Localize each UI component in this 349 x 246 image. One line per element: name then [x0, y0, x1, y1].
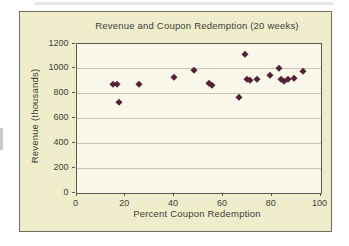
y-tick-label: 200	[35, 163, 69, 172]
data-point	[246, 77, 252, 83]
x-tick-label: 100	[305, 199, 335, 208]
x-tick-label: 0	[61, 199, 91, 208]
y-tick-mark	[72, 142, 75, 143]
x-tick-mark	[222, 193, 223, 196]
data-point	[276, 65, 282, 71]
y-gridline	[77, 143, 321, 144]
x-tick-mark	[271, 193, 272, 196]
y-tick-mark	[72, 167, 75, 168]
x-tick-label: 80	[256, 199, 286, 208]
y-tick-label: 400	[35, 138, 69, 147]
x-tick-mark	[320, 193, 321, 196]
y-tick-label: 0	[35, 188, 69, 197]
y-tick-mark	[72, 192, 75, 193]
data-point	[236, 93, 242, 99]
data-point	[209, 82, 215, 88]
scan-artifact-top	[34, 2, 334, 5]
chart-frame: Revenue and Coupon Redemption (20 weeks)…	[19, 11, 332, 232]
y-gridline	[77, 93, 321, 94]
x-tick-label: 20	[109, 199, 139, 208]
y-tick-mark	[72, 117, 75, 118]
data-point	[267, 72, 273, 78]
data-point	[190, 67, 196, 73]
x-tick-label: 60	[207, 199, 237, 208]
y-tick-mark	[72, 43, 75, 44]
x-tick-mark	[173, 193, 174, 196]
y-gridline	[77, 68, 321, 69]
data-point	[290, 75, 296, 81]
y-gridline	[77, 118, 321, 119]
chart-title: Revenue and Coupon Redemption (20 weeks)	[75, 20, 319, 31]
y-tick-mark	[72, 67, 75, 68]
y-tick-label: 800	[35, 88, 69, 97]
data-point	[242, 51, 248, 57]
page: Revenue and Coupon Redemption (20 weeks)…	[0, 0, 349, 246]
y-tick-label: 600	[35, 113, 69, 122]
y-tick-label: 1200	[35, 39, 69, 48]
y-tick-mark	[72, 92, 75, 93]
y-tick-label: 1000	[35, 63, 69, 72]
data-point	[135, 81, 141, 87]
data-point	[114, 81, 120, 87]
data-point	[254, 76, 260, 82]
data-point	[171, 74, 177, 80]
plot-area	[76, 43, 322, 194]
y-gridline	[77, 168, 321, 169]
x-tick-label: 40	[158, 199, 188, 208]
data-point	[116, 99, 122, 105]
scan-artifact-left	[0, 128, 3, 150]
x-axis-title: Percent Coupon Redemption	[75, 208, 319, 219]
x-tick-mark	[124, 193, 125, 196]
x-tick-mark	[76, 193, 77, 196]
